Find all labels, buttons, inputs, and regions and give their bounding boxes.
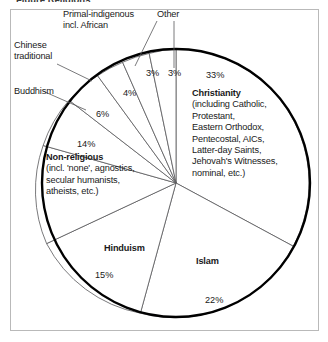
pie-chart-figure: Figure Religions Primal-indigenous incl.… — [0, 0, 328, 342]
label-christianity-detail-6: Jehovah's Witnesses, — [192, 156, 278, 167]
label-christianity-detail-4: Pentecostal, AICs, — [192, 134, 278, 145]
label-christianity-detail-2: Protestant, — [192, 111, 278, 122]
label-non-religious-detail-1: (incl. 'none', agnostics, — [46, 163, 135, 174]
label-other-text: Other — [157, 9, 179, 19]
label-non-religious-title: Non-religious — [46, 152, 135, 163]
pct-christianity: 33% — [206, 70, 224, 81]
label-primal-indigenous: Primal-indigenous incl. African — [63, 9, 134, 32]
label-block-non-religious: Non-religious (incl. 'none', agnostics, … — [46, 152, 135, 198]
label-buddhism: Buddhism — [14, 86, 54, 97]
label-block-islam: Islam — [196, 256, 219, 267]
label-chinese-traditional: Chinese traditional — [14, 40, 52, 63]
label-buddhism-text: Buddhism — [14, 86, 54, 96]
pct-hinduism: 15% — [95, 270, 113, 281]
label-christianity-detail-7: nominal, etc.) — [192, 168, 278, 179]
label-other: Other — [157, 9, 179, 20]
label-christianity-title: Christianity — [192, 88, 278, 99]
label-islam-title: Islam — [196, 256, 219, 267]
pct-islam: 22% — [205, 295, 223, 306]
label-chinese-traditional-line1: Chinese — [14, 40, 47, 50]
label-non-religious-detail-3: atheists, etc.) — [46, 186, 135, 197]
pct-non-religious: 14% — [77, 139, 95, 150]
label-chinese-traditional-line2: traditional — [14, 51, 52, 61]
pct-primal-indigenous: 3% — [146, 68, 159, 79]
pct-chinese-traditional: 4% — [123, 88, 136, 99]
label-block-christianity: Christianity (including Catholic, Protes… — [192, 88, 278, 179]
label-primal-indigenous-line2: incl. African — [63, 20, 108, 30]
label-primal-indigenous-line1: Primal-indigenous — [63, 9, 134, 19]
label-christianity-detail-5: Latter-day Saints, — [192, 145, 278, 156]
leader-chinese-traditional — [57, 64, 92, 81]
label-christianity-detail-3: Eastern Orthodox, — [192, 122, 278, 133]
label-christianity-detail-1: (including Catholic, — [192, 99, 278, 110]
label-hinduism-title: Hinduism — [104, 243, 145, 254]
pct-buddhism: 6% — [96, 109, 109, 120]
pct-other: 3% — [168, 68, 181, 79]
label-non-religious-detail-2: secular humanists, — [46, 175, 135, 186]
label-block-hinduism: Hinduism — [104, 243, 145, 254]
